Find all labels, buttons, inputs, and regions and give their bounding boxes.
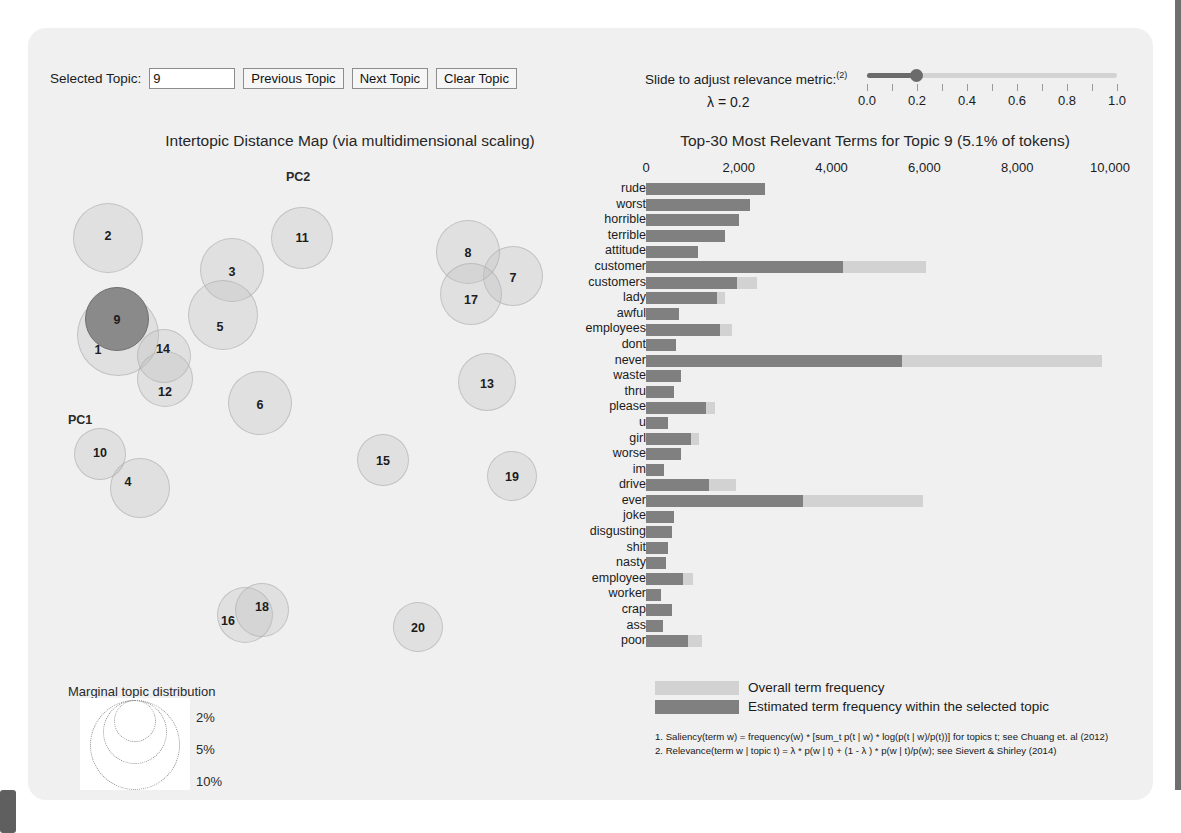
bar-row[interactable]: drive [560, 478, 1140, 494]
topic-controls: Selected Topic: Previous Topic Next Topi… [50, 68, 517, 89]
topic-label-3: 3 [229, 265, 236, 279]
bar-row[interactable]: dont [560, 338, 1140, 354]
x-axis-tick-labels: 02,0004,0006,0008,00010,000 [560, 160, 1140, 178]
bar-row[interactable]: please [560, 400, 1140, 416]
topic-label-17: 17 [464, 293, 478, 307]
bar-row[interactable]: never [560, 354, 1140, 370]
slider-tick-label: 0.0 [858, 93, 876, 108]
topic-label-20: 20 [411, 621, 425, 635]
slider-caption: Slide to adjust relevance metric:(2) [645, 70, 847, 87]
bar-row[interactable]: customers [560, 276, 1140, 292]
bar-term-label: girl [629, 431, 646, 445]
bar-row[interactable]: disgusting [560, 525, 1140, 541]
topic-label-5: 5 [217, 320, 224, 334]
bar-row[interactable]: ass [560, 619, 1140, 635]
bar-term-label: drive [619, 477, 646, 491]
axis-label-pc1: PC1 [68, 413, 92, 427]
bar-term-label: joke [623, 508, 646, 522]
topic-label-12: 12 [158, 385, 172, 399]
bar-row[interactable]: girl [560, 432, 1140, 448]
topic-label-4: 4 [125, 475, 132, 489]
next-topic-button[interactable]: Next Topic [352, 68, 428, 89]
slider-caption-text: Slide to adjust relevance metric: [645, 72, 836, 87]
clear-topic-button[interactable]: Clear Topic [436, 68, 517, 89]
bar-row[interactable]: employees [560, 322, 1140, 338]
bar-topic-frequency [646, 230, 725, 242]
slider-handle[interactable] [910, 69, 923, 82]
bar-row[interactable]: terrible [560, 229, 1140, 245]
bar-term-label: rude [621, 181, 646, 195]
bar-topic-frequency [646, 448, 681, 460]
bar-row[interactable]: waste [560, 369, 1140, 385]
bar-row[interactable]: horrible [560, 213, 1140, 229]
relevance-slider[interactable] [867, 73, 1117, 78]
legend-swatch-overall [655, 681, 739, 695]
bar-term-label: horrible [604, 212, 646, 226]
x-tick-10,000: 10,000 [1090, 160, 1130, 175]
bar-topic-frequency [646, 589, 661, 601]
bar-row[interactable]: poor [560, 634, 1140, 650]
footnote-saliency: 1. Saliency(term w) = frequency(w) * [su… [655, 730, 1135, 744]
bar-row[interactable]: im [560, 463, 1140, 479]
bar-row[interactable]: employee [560, 572, 1140, 588]
bar-topic-frequency [646, 464, 664, 476]
bar-row[interactable]: worst [560, 198, 1140, 214]
bar-row[interactable]: u [560, 416, 1140, 432]
bar-term-label: please [609, 399, 646, 413]
bar-topic-frequency [646, 573, 683, 585]
bar-row[interactable]: lady [560, 291, 1140, 307]
bar-topic-frequency [646, 324, 720, 336]
bar-row[interactable]: crap [560, 603, 1140, 619]
slider-tick-label: 0.4 [958, 93, 976, 108]
bar-term-label: customers [588, 275, 646, 289]
bar-term-label: ever [622, 493, 646, 507]
bar-term-label: lady [623, 290, 646, 304]
bar-row[interactable]: joke [560, 509, 1140, 525]
marginal-distribution-labels: 2%5%10% [196, 710, 222, 806]
axis-label-pc2: PC2 [286, 170, 310, 184]
bar-row[interactable]: nasty [560, 556, 1140, 572]
bar-row[interactable]: worse [560, 447, 1140, 463]
bar-topic-frequency [646, 370, 681, 382]
left-bottom-marker [0, 790, 16, 833]
bar-row[interactable]: customer [560, 260, 1140, 276]
intertopic-distance-map[interactable]: PC2 PC1 1234567891011121314151617181920 [40, 160, 570, 680]
footnotes: 1. Saliency(term w) = frequency(w) * [su… [655, 730, 1135, 758]
bar-row[interactable]: awful [560, 307, 1140, 323]
topic-label-14: 14 [156, 342, 170, 356]
bar-term-label: poor [621, 633, 646, 647]
slider-tick [967, 84, 968, 91]
bar-row[interactable]: thru [560, 385, 1140, 401]
bar-topic-frequency [646, 308, 679, 320]
topic-bubble-5[interactable] [188, 280, 258, 350]
topic-label-1: 1 [95, 343, 102, 357]
bar-term-label: waste [613, 368, 646, 382]
bar-term-label: never [615, 353, 646, 367]
bar-row[interactable]: rude [560, 182, 1140, 198]
slider-ticks [867, 84, 1117, 93]
bar-row[interactable]: ever [560, 494, 1140, 510]
bar-term-label: terrible [608, 228, 646, 242]
bar-term-label: disgusting [590, 524, 646, 538]
top-terms-bar-chart: 02,0004,0006,0008,00010,000 rudeworsthor… [560, 160, 1140, 670]
bar-term-label: dont [622, 337, 646, 351]
bar-topic-frequency [646, 495, 803, 507]
bar-term-label: thru [624, 384, 646, 398]
slider-tick-label: 0.2 [908, 93, 926, 108]
topic-label-9: 9 [114, 313, 121, 327]
topic-label-19: 19 [505, 470, 519, 484]
marginal-pct-label: 2% [196, 710, 222, 725]
bar-topic-frequency [646, 542, 668, 554]
bar-topic-frequency [646, 402, 706, 414]
bar-row[interactable]: attitude [560, 244, 1140, 260]
bar-topic-frequency [646, 183, 765, 195]
topic-bubble-14[interactable] [137, 329, 191, 383]
previous-topic-button[interactable]: Previous Topic [243, 68, 343, 89]
selected-topic-input[interactable] [149, 68, 235, 89]
topic-label-16: 16 [221, 614, 235, 628]
slider-tick-label: 0.6 [1008, 93, 1026, 108]
bar-topic-frequency [646, 433, 691, 445]
bar-row[interactable]: worker [560, 587, 1140, 603]
bar-row[interactable]: shit [560, 541, 1140, 557]
bar-topic-frequency [646, 246, 698, 258]
